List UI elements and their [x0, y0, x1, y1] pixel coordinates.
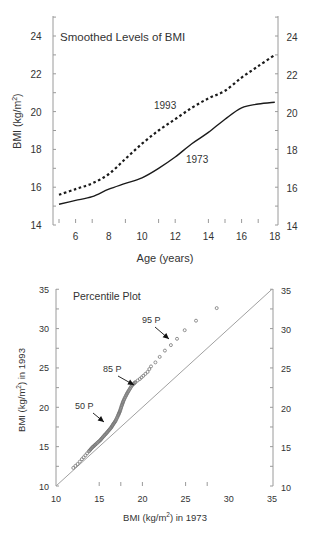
- percentile-marker: [163, 349, 166, 352]
- percentile-marker: [158, 355, 161, 358]
- bottom-y-tick-label-left: 15: [39, 442, 49, 452]
- percentile-marker: [86, 452, 89, 455]
- top-x-tick-label: 18: [269, 231, 281, 242]
- bottom-y-tick-label-right: 10: [281, 483, 291, 493]
- percentile-marker: [195, 319, 198, 322]
- bottom-y-tick-label-right: 35: [281, 286, 291, 296]
- bottom-x-tick-label: 15: [94, 494, 104, 504]
- top-y-axis-label: BMI (kg/m2): [11, 93, 23, 148]
- bottom-y-tick-label-left: 35: [39, 285, 49, 295]
- top-x-tick-label: 16: [236, 231, 248, 242]
- bottom-x-tick-label: 20: [137, 494, 147, 504]
- top-y-tick-label-right: 24: [286, 32, 298, 43]
- bottom-y-axis-label: BMI (kg/m2) in 1993: [15, 348, 27, 432]
- top-y-tick-label-right: 16: [286, 183, 298, 194]
- percentile-marker: [183, 329, 186, 332]
- bottom-x-axis-label: BMI (kg/m2) in 1973: [123, 511, 207, 523]
- percentile-marker: [169, 344, 172, 347]
- top-y-tick-label-right: 14: [286, 221, 298, 232]
- percentile-marker: [150, 365, 153, 368]
- top-tick-labels: 141416161818202022222424681012141618: [30, 31, 298, 242]
- percentile-marker: [80, 458, 83, 461]
- top-y-tick-label-left: 18: [30, 144, 42, 155]
- bottom-y-tick-label-right: 20: [281, 404, 291, 414]
- top-y-tick-label-left: 22: [30, 69, 42, 80]
- top-x-tick-label: 10: [136, 231, 148, 242]
- top-y-tick-label-left: 24: [30, 31, 42, 42]
- bottom-y-tick-label-right: 25: [281, 364, 291, 374]
- bottom-x-tick-label: 30: [224, 494, 234, 504]
- top-y-tick-label-right: 22: [286, 70, 298, 81]
- label-95p: 95 P: [142, 315, 161, 325]
- percentile-marker: [215, 307, 218, 310]
- bottom-y-tick-label-left: 25: [39, 363, 49, 373]
- label-85p: 85 P: [103, 364, 122, 374]
- top-chart-title: Smoothed Levels of BMI: [60, 31, 185, 43]
- top-y-tick-label-left: 16: [30, 182, 42, 193]
- percentile-plot: 101015152020252530303535101520253035 Per…: [15, 285, 291, 523]
- bottom-x-tick-label: 10: [51, 494, 61, 504]
- bottom-x-tick-label: 35: [267, 494, 277, 504]
- arrow-head-icon: [98, 416, 104, 422]
- bottom-y-tick-label-left: 20: [39, 403, 49, 413]
- top-x-tick-label: 6: [73, 231, 79, 242]
- series-1973-line: [59, 102, 275, 204]
- bottom-y-tick-label-left: 10: [39, 482, 49, 492]
- top-x-tick-label: 12: [170, 231, 182, 242]
- bottom-x-tick-label: 25: [181, 494, 191, 504]
- top-x-axis-label: Age (years): [137, 252, 194, 264]
- top-x-tick-label: 8: [106, 231, 112, 242]
- identity-reference-line: [56, 289, 272, 486]
- top-y-tick-label-right: 20: [286, 108, 298, 119]
- bottom-tick-labels: 101015152020252530303535101520253035: [39, 285, 291, 504]
- smoothed-bmi-chart: 141416161818202022222424681012141618 Smo…: [11, 16, 298, 264]
- figure: 141416161818202022222424681012141618 Smo…: [0, 0, 310, 539]
- bottom-y-tick-label-left: 30: [39, 324, 49, 334]
- top-y-tick-label-left: 20: [30, 107, 42, 118]
- top-axes: [53, 16, 278, 225]
- series-1993-line: [59, 55, 275, 195]
- percentile-marker: [154, 361, 157, 364]
- percentile-marker: [176, 337, 179, 340]
- percentile-markers: [72, 307, 218, 470]
- label-1973: 1973: [186, 154, 209, 165]
- bottom-y-tick-label-right: 15: [281, 443, 291, 453]
- bottom-chart-title: Percentile Plot: [73, 290, 141, 302]
- top-x-tick-label: 14: [203, 231, 215, 242]
- top-y-tick-label-right: 18: [286, 145, 298, 156]
- label-1993: 1993: [154, 100, 177, 111]
- bottom-y-tick-label-right: 30: [281, 325, 291, 335]
- top-y-tick-label-left: 14: [30, 220, 42, 231]
- percentile-arrows: [93, 327, 169, 422]
- label-50p: 50 P: [75, 401, 94, 411]
